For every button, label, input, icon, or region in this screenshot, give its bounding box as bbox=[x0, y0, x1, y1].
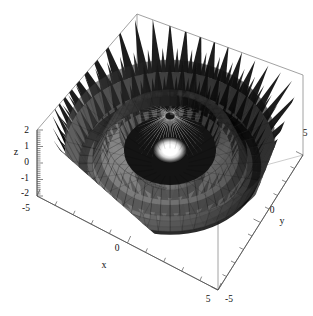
z-tick-label-1: 1 bbox=[24, 141, 29, 151]
x-tick-label-0: 0 bbox=[115, 243, 120, 253]
z-tick-label-2: 2 bbox=[24, 125, 29, 135]
x-tick-label-neg5: -5 bbox=[22, 203, 30, 213]
y-axis-label: y bbox=[280, 215, 285, 226]
y-tick-label-neg5: -5 bbox=[225, 294, 233, 304]
z-tick-label-neg1: -1 bbox=[21, 173, 29, 183]
y-tick-label-0: 0 bbox=[270, 205, 275, 215]
z-axis-label: z bbox=[14, 146, 19, 157]
z-tick-label-neg2: -2 bbox=[21, 188, 29, 198]
z-axis bbox=[37, 130, 43, 196]
y-tick-label-5: 5 bbox=[303, 128, 308, 138]
surface-mesh bbox=[52, 19, 308, 232]
x-tick-label-5: 5 bbox=[206, 294, 211, 304]
three-d-surface-plot: 2 1 0 -1 -2 -5 0 5 -5 0 5 z x y bbox=[0, 0, 313, 316]
z-axis-ticks bbox=[37, 130, 43, 196]
x-axis-label: x bbox=[102, 259, 107, 270]
z-tick-label-0: 0 bbox=[24, 157, 29, 167]
plot-root: 2 1 0 -1 -2 -5 0 5 -5 0 5 z x y bbox=[0, 0, 313, 316]
